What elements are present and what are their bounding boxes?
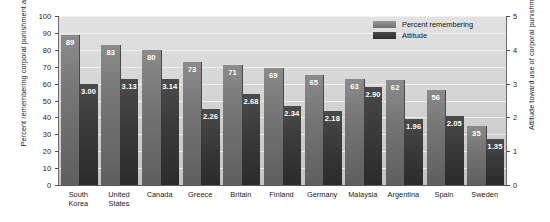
- y-axis-left-tick: [55, 101, 59, 102]
- bar-percent-remembering[interactable]: 71: [223, 65, 243, 185]
- y-axis-right-tick: [506, 16, 510, 17]
- bar-percent-remembering[interactable]: 56: [427, 90, 447, 185]
- y-axis-left-tick-label: 30: [25, 130, 51, 139]
- bar-group: 712.68: [223, 16, 260, 185]
- bar-attitude[interactable]: 1.35: [486, 139, 505, 185]
- y-axis-right-tick: [506, 151, 510, 152]
- legend-swatch-attitude-icon: [373, 32, 396, 39]
- y-axis-left-tick-label: 100: [25, 12, 51, 21]
- bar-attitude[interactable]: 2.90: [364, 87, 383, 185]
- y-axis-left-tick: [55, 168, 59, 169]
- bar-attitude[interactable]: 2.05: [445, 116, 464, 185]
- bar-value-label: 65: [305, 78, 324, 87]
- y-axis-left-tick: [55, 16, 59, 17]
- legend-label-percent-remembering: Percent remembering: [402, 20, 473, 29]
- bar-value-label: 80: [142, 53, 161, 62]
- bar-attitude[interactable]: 2.26: [201, 109, 220, 185]
- x-axis-category-label: Finland: [261, 190, 302, 199]
- bar-value-label: 2.68: [242, 97, 261, 106]
- y-axis-right-tick-label: 1: [513, 147, 527, 156]
- bar-value-label: 73: [183, 65, 202, 74]
- bar-percent-remembering[interactable]: 83: [101, 45, 121, 185]
- y-axis-left-tick-label: 90: [25, 29, 51, 38]
- bar-value-label: 71: [223, 68, 242, 77]
- bar-group: 803.14: [142, 16, 179, 185]
- bar-value-label: 2.90: [364, 90, 383, 99]
- bar-value-label: 2.34: [283, 109, 302, 118]
- bar-value-label: 63: [345, 82, 364, 91]
- bar-percent-remembering[interactable]: 35: [467, 126, 487, 185]
- y-axis-left-tick-label: 0: [25, 181, 51, 190]
- y-axis-right-tick: [506, 117, 510, 118]
- bar-percent-remembering[interactable]: 62: [386, 80, 406, 185]
- bar-value-label: 69: [264, 71, 283, 80]
- bar-value-label: 56: [427, 93, 446, 102]
- x-axis-category-label: Britain: [221, 190, 262, 199]
- x-axis-category-label: Canada: [139, 190, 180, 199]
- y-axis-left-tick-label: 70: [25, 63, 51, 72]
- y-axis-left-tick-label: 10: [25, 164, 51, 173]
- y-axis-left-tick: [55, 33, 59, 34]
- legend-swatch-percent-remembering-icon: [373, 21, 396, 28]
- bar-group: 652.18: [305, 16, 342, 185]
- bar-group: 893.00: [61, 16, 98, 185]
- y-axis-left-title: Percent remembering corporal punishment …: [19, 0, 28, 147]
- bar-attitude[interactable]: 1.96: [404, 119, 423, 185]
- bar-group: 833.13: [101, 16, 138, 185]
- y-axis-right-tick-label: 2: [513, 113, 527, 122]
- right-axis-line: [506, 16, 507, 185]
- y-axis-right-tick-label: 0: [513, 181, 527, 190]
- y-axis-left-tick: [55, 117, 59, 118]
- bar-value-label: 1.96: [404, 122, 423, 131]
- y-axis-right-tick: [506, 84, 510, 85]
- bar-value-label: 89: [61, 38, 80, 47]
- y-axis-left-tick-label: 20: [25, 147, 51, 156]
- bar-value-label: 2.18: [323, 114, 342, 123]
- bar-group: 351.35: [467, 16, 504, 185]
- bar-value-label: 83: [101, 48, 120, 57]
- bar-percent-remembering[interactable]: 73: [183, 62, 203, 185]
- bar-attitude[interactable]: 2.18: [323, 111, 342, 185]
- bar-attitude[interactable]: 3.14: [161, 79, 180, 185]
- bar-percent-remembering[interactable]: 63: [345, 79, 365, 185]
- y-axis-right-tick: [506, 50, 510, 51]
- x-axis-line: [57, 185, 506, 186]
- bar-group: 732.26: [183, 16, 220, 185]
- bar-percent-remembering[interactable]: 65: [305, 75, 325, 185]
- x-axis-category-label: Greece: [180, 190, 221, 199]
- bar-attitude[interactable]: 3.13: [120, 79, 139, 185]
- bar-chart: Percent remembering corporal punishment …: [0, 0, 550, 222]
- bar-value-label: 2.26: [201, 112, 220, 121]
- chart-legend: Percent remembering Attitude: [373, 19, 473, 41]
- x-axis-category-label: South Korea: [58, 190, 99, 209]
- bar-percent-remembering[interactable]: 80: [142, 50, 162, 185]
- bar-group: 562.05: [427, 16, 464, 185]
- y-axis-right-title: Attitude toward use of corporal punishme…: [527, 0, 536, 147]
- legend-item-percent-remembering: Percent remembering: [373, 19, 473, 30]
- bar-attitude[interactable]: 3.00: [79, 84, 98, 185]
- y-axis-right-tick-label: 5: [513, 12, 527, 21]
- plot-area: 0102030405060708090100012345893.00833.13…: [58, 16, 506, 185]
- y-axis-right-tick-label: 4: [513, 46, 527, 55]
- bar-attitude[interactable]: 2.34: [283, 106, 302, 185]
- bar-percent-remembering[interactable]: 69: [264, 68, 284, 185]
- y-axis-left-tick-label: 40: [25, 113, 51, 122]
- bar-group: 621.96: [386, 16, 423, 185]
- y-axis-right-tick: [506, 185, 510, 186]
- bar-group: 692.34: [264, 16, 301, 185]
- bar-value-label: 3.14: [161, 82, 180, 91]
- y-axis-left-tick-label: 60: [25, 80, 51, 89]
- x-axis-category-label: United States: [99, 190, 140, 209]
- x-axis-category-label: Germany: [302, 190, 343, 199]
- bar-value-label: 35: [467, 129, 486, 138]
- legend-item-attitude: Attitude: [373, 30, 473, 41]
- bar-attitude[interactable]: 2.68: [242, 94, 261, 185]
- y-axis-left-tick: [55, 50, 59, 51]
- y-axis-left-tick: [55, 134, 59, 135]
- bar-value-label: 62: [386, 83, 405, 92]
- bar-percent-remembering[interactable]: 89: [61, 35, 81, 185]
- y-axis-left-tick-label: 50: [25, 97, 51, 106]
- y-axis-right-tick-label: 3: [513, 80, 527, 89]
- y-axis-left-tick-label: 80: [25, 46, 51, 55]
- y-axis-left-tick: [55, 84, 59, 85]
